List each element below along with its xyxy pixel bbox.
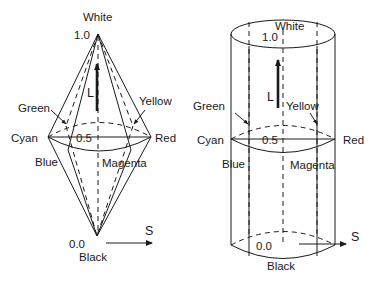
cylinder-diagram: L S White 1.0 Green Yellow Cyan Red 0.5 … — [193, 20, 364, 272]
cone-top-value: 1.0 — [74, 29, 90, 41]
cone-equator-back — [48, 123, 151, 138]
cone-green-label: Green — [18, 102, 50, 114]
cylinder-white-label: White — [275, 20, 304, 32]
cone-edge-magenta-top — [98, 34, 131, 150]
cylinder-saturation-label: S — [351, 230, 359, 244]
cylinder-black-label: Black — [267, 260, 295, 272]
hsl-models-figure: L S White 1.0 Green Yellow Cyan Red 0.5 … — [0, 0, 374, 281]
cone-bottom-value: 0.0 — [69, 238, 85, 250]
cone-edge-yellow-top — [98, 34, 133, 126]
cylinder-cyan-label: Cyan — [197, 134, 224, 146]
cone-blue-label: Blue — [35, 156, 58, 168]
cylinder-blue-label: Blue — [222, 158, 245, 170]
cone-white-label: White — [83, 11, 112, 23]
cone-lightness-label: L — [87, 86, 94, 100]
cylinder-yellow-label: Yellow — [286, 100, 320, 112]
cylinder-yellow-pointer — [310, 113, 317, 124]
cylinder-bottom-front — [231, 245, 335, 259]
cylinder-magenta-label: Magenta — [290, 159, 335, 171]
cylinder-top-value: 1.0 — [262, 31, 278, 43]
cylinder-bottom-value: 0.0 — [256, 240, 272, 252]
cone-edge-cyan-bottom — [48, 137, 97, 236]
cone-edge-yellow-bottom — [97, 126, 133, 236]
cylinder-mid-value: 0.5 — [262, 134, 278, 146]
cone-edge-blue-bottom — [68, 150, 97, 236]
cone-edge-red-top — [98, 34, 151, 137]
cylinder-green-pointer — [235, 113, 248, 124]
cylinder-red-label: Red — [343, 134, 364, 146]
double-cone-diagram: L S White 1.0 Green Yellow Cyan Red 0.5 … — [11, 11, 176, 263]
cone-green-pointer — [51, 110, 66, 124]
cone-magenta-label: Magenta — [102, 157, 147, 169]
cone-equator-front — [48, 137, 151, 151]
cylinder-lightness-label: L — [267, 90, 274, 104]
cone-edge-green-top — [66, 34, 98, 126]
cone-mid-value: 0.5 — [76, 132, 92, 144]
cone-yellow-label: Yellow — [139, 95, 173, 107]
cone-saturation-label: S — [145, 224, 153, 238]
cone-black-label: Black — [79, 251, 107, 263]
cone-edge-red-bottom — [97, 137, 151, 236]
cylinder-green-label: Green — [193, 100, 225, 112]
cone-cyan-label: Cyan — [11, 132, 38, 144]
cone-red-label: Red — [155, 132, 176, 144]
